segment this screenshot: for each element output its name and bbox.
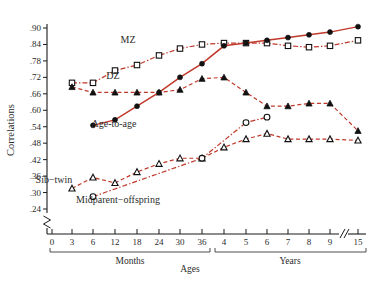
- x-tick-label: 12: [111, 237, 120, 247]
- data-point-open-triangle: [69, 185, 75, 191]
- data-point-open-triangle: [134, 169, 140, 175]
- x-tick-label: 3: [70, 237, 75, 247]
- y-tick-label: .78: [30, 56, 42, 66]
- x-axis: 036121824303645678915: [47, 229, 366, 247]
- y-axis: .24.30.36.42.48.54.60.66.72.78.84.90: [30, 23, 51, 234]
- series-annotations: MZDZAge-to-ageSib−twinMidparent−offsprin…: [36, 34, 160, 205]
- y-tick-label: .84: [30, 39, 42, 49]
- x-tick-label: 4: [222, 237, 227, 247]
- y-tick-label: .72: [30, 72, 41, 82]
- data-point-filled-circle: [328, 30, 333, 35]
- data-point-open-circle: [199, 155, 205, 161]
- data-point-filled-triangle: [90, 89, 96, 95]
- x-group-label: Years: [279, 256, 301, 266]
- series-annotation-label: Sib−twin: [36, 174, 73, 185]
- y-tick-label: .90: [30, 23, 42, 33]
- y-axis-label: Correlations: [5, 104, 16, 156]
- series-annotation-label: Midparent−offspring: [76, 194, 160, 205]
- y-tick-label: .48: [30, 138, 42, 148]
- series-sib-twin: [69, 130, 361, 191]
- data-point-open-triangle: [306, 136, 312, 142]
- data-point-open-triangle: [112, 180, 118, 186]
- data-point-filled-circle: [356, 24, 361, 29]
- x-tick-label: 24: [155, 237, 165, 247]
- data-point-filled-circle: [200, 61, 205, 66]
- x-group-label: Months: [115, 256, 144, 266]
- y-tick-label: .66: [30, 89, 42, 99]
- data-point-open-circle: [243, 120, 249, 126]
- x-tick-label: 15: [354, 237, 364, 247]
- series-annotation-label: Age-to-age: [92, 118, 138, 129]
- x-tick-label: 5: [244, 237, 249, 247]
- x-tick-label: 9: [328, 237, 333, 247]
- data-point-open-square: [199, 42, 204, 47]
- series-annotation-label: MZ: [121, 34, 136, 45]
- data-point-filled-circle: [157, 90, 162, 95]
- x-tick-label: 30: [176, 237, 186, 247]
- data-point-open-triangle: [221, 144, 227, 150]
- data-series-group: [69, 24, 361, 199]
- y-tick-label: .42: [30, 155, 41, 165]
- y-tick-label: .24: [30, 204, 42, 214]
- chart-canvas: Correlations .24.30.36.42.48.54.60.66.72…: [0, 0, 372, 283]
- data-point-open-square: [90, 80, 95, 85]
- data-point-open-triangle: [156, 161, 162, 167]
- data-point-filled-triangle: [264, 103, 270, 109]
- y-tick-label: .54: [30, 122, 42, 132]
- data-point-open-circle: [264, 114, 270, 120]
- y-axis-label-group: Correlations: [5, 104, 16, 156]
- data-point-filled-circle: [222, 43, 227, 48]
- data-point-open-square: [177, 46, 182, 51]
- data-point-open-triangle: [177, 155, 183, 161]
- data-point-filled-circle: [135, 104, 140, 109]
- x-tick-label: 18: [133, 237, 143, 247]
- data-point-open-triangle: [243, 136, 249, 142]
- data-point-open-square: [355, 38, 360, 43]
- x-tick-label: 6: [265, 237, 270, 247]
- data-point-open-triangle: [90, 174, 96, 180]
- data-point-open-triangle: [355, 137, 361, 143]
- x-tick-label: 0: [50, 237, 55, 247]
- series-annotation-label: DZ: [106, 70, 119, 81]
- data-point-filled-circle: [244, 41, 249, 46]
- data-point-open-triangle: [327, 136, 333, 142]
- correlations-by-age-chart: Correlations .24.30.36.42.48.54.60.66.72…: [0, 0, 372, 283]
- y-tick-label: .60: [30, 105, 42, 115]
- data-point-filled-triangle: [243, 89, 249, 95]
- x-axis-label: Ages: [180, 264, 200, 274]
- x-tick-label: 8: [307, 237, 312, 247]
- y-tick-label: .30: [30, 188, 42, 198]
- data-point-open-triangle: [285, 136, 291, 142]
- data-point-filled-circle: [286, 35, 291, 40]
- data-point-filled-circle: [307, 32, 312, 37]
- data-point-open-triangle: [264, 130, 270, 136]
- data-point-filled-circle: [178, 75, 183, 80]
- x-tick-label: 6: [91, 237, 96, 247]
- data-point-open-square: [306, 44, 311, 49]
- data-point-open-square: [327, 43, 332, 48]
- data-point-open-square: [285, 43, 290, 48]
- x-tick-label: 7: [286, 237, 291, 247]
- data-point-filled-circle: [265, 38, 270, 43]
- data-point-open-square: [134, 62, 139, 67]
- data-point-open-square: [156, 53, 161, 58]
- x-tick-label: 36: [198, 237, 208, 247]
- data-point-filled-triangle: [327, 100, 333, 106]
- axis-group-brackets: MonthsYears: [50, 248, 366, 266]
